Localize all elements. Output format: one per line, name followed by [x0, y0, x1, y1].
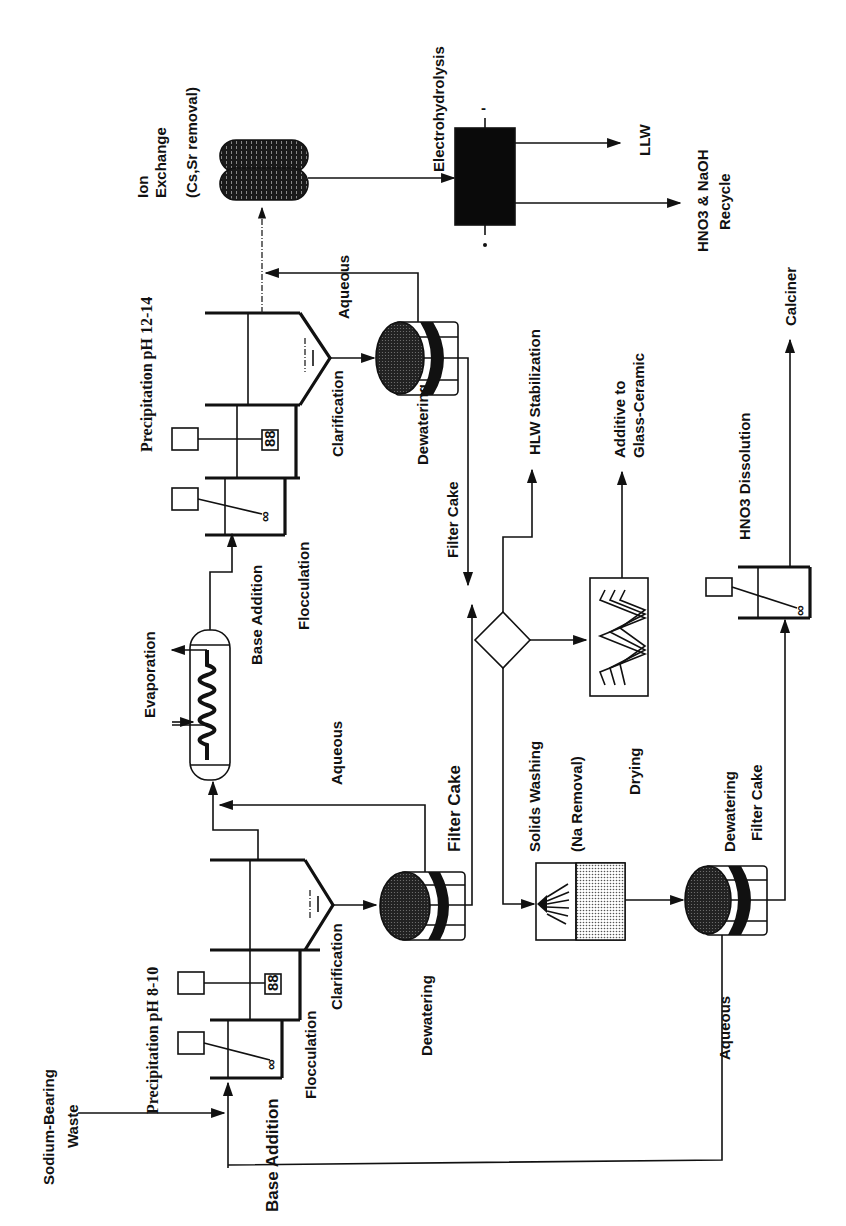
label-hno3-dissolution: HNO3 Dissolution	[736, 412, 753, 540]
flocculation-tank-2: ∞	[172, 478, 300, 535]
motor-icon	[172, 428, 198, 450]
label-flocculation-1: Flocculation	[302, 1011, 319, 1099]
filter-cake-line-3	[767, 620, 785, 900]
label-ion: Ion	[134, 176, 151, 199]
feed-sodium-bearing-waste: Sodium-Bearing Waste	[40, 1069, 228, 1185]
evaporator	[172, 630, 230, 780]
label-precipitation-1: Precipitation pH 8-10	[144, 967, 162, 1114]
label-dewatering-1: Dewatering	[418, 975, 435, 1056]
impeller-icon: ∞	[256, 511, 273, 522]
label-sodium-bearing: Sodium-Bearing	[40, 1069, 57, 1185]
process-flow-diagram: Sodium-Bearing Waste ∞ 88	[0, 0, 846, 1226]
ion-exchange-column	[220, 140, 308, 200]
label-base-addition-1: Base Addition	[263, 1098, 282, 1212]
motor-icon	[178, 972, 204, 994]
label-llw: LLW	[636, 124, 653, 156]
precipitation-tank-1: 88	[178, 950, 320, 1020]
flocculation-tank-1: ∞	[178, 1020, 300, 1078]
label-glass-ceramic: Glass-Ceramic	[630, 353, 647, 458]
precipitation-tank-2: 88	[172, 405, 300, 478]
label-dewatering-2: Dewatering	[414, 384, 431, 465]
label-clarification-1: Clarification	[328, 923, 345, 1010]
label-base-addition-2: Base Addition	[248, 565, 265, 665]
evaporator-to-train2-line	[210, 534, 232, 630]
motor-icon	[706, 578, 732, 596]
label-recycle: Recycle	[716, 173, 733, 230]
dewatering-filter-3	[685, 866, 767, 935]
clarifier-2	[205, 313, 374, 405]
label-flocculation-2: Flocculation	[295, 542, 312, 630]
svg-text:88: 88	[264, 974, 281, 991]
motor-icon	[178, 1032, 204, 1054]
label-evaporation: Evaporation	[141, 631, 158, 718]
overflow-line-1	[213, 782, 258, 860]
filter-cake-line-1	[465, 605, 472, 905]
hno3-dissolution-tank: ∞	[706, 567, 810, 618]
electrode-plus	[483, 243, 487, 247]
splitter-diamond	[475, 612, 530, 668]
electrode-minus: -	[481, 99, 486, 116]
label-exchange: Exchange	[152, 127, 169, 198]
label-aqueous-3: Aqueous	[716, 996, 733, 1060]
label-aqueous-2: Aqueous	[335, 255, 352, 319]
label-electrohydrolysis: Electrohydrolysis	[430, 46, 447, 172]
clarifier-1	[210, 860, 376, 950]
svg-text:88: 88	[261, 430, 278, 447]
label-na-removal: (Na Removal)	[568, 756, 585, 852]
dryer	[590, 578, 648, 696]
label-calciner: Calciner	[782, 267, 799, 326]
label-cs-sr-removal: (Cs,Sr removal)	[183, 87, 200, 198]
label-hno3-naoh: HNO3 & NaOH	[694, 149, 711, 252]
impeller-icon: ∞	[262, 1059, 279, 1070]
impeller-icon: ∞	[791, 605, 808, 616]
label-filter-cake-1: Filter Cake	[445, 765, 464, 852]
label-clarification-2: Clarification	[329, 370, 346, 457]
label-drying: Drying	[626, 747, 643, 795]
label-precipitation-2: Precipitation pH 12-14	[138, 297, 156, 452]
label-filter-cake-2: Filter Cake	[444, 481, 461, 558]
label-aqueous-1: Aqueous	[328, 721, 345, 785]
label-filter-cake-3: Filter Cake	[748, 764, 765, 841]
electrohydrolysis-cell: -	[455, 99, 515, 247]
label-dewatering-3: Dewatering	[721, 771, 738, 852]
motor-icon	[172, 488, 198, 510]
hlw-line	[503, 470, 532, 612]
label-solids-washing: Solids Washing	[526, 741, 543, 852]
label-waste: Waste	[64, 1104, 81, 1148]
dewatering-filter-2	[376, 322, 458, 395]
solids-washing-tank	[536, 863, 625, 940]
label-additive-to: Additive to	[611, 381, 628, 459]
label-hlw-stabilization: HLW Stabilization	[526, 329, 543, 455]
dewatering-filter-1	[380, 872, 465, 940]
